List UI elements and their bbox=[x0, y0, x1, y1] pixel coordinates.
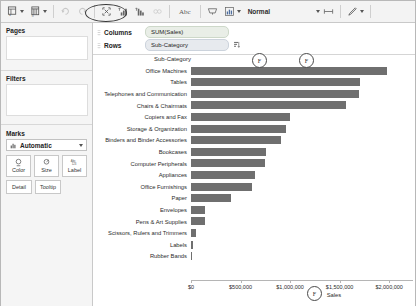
fix-axes-button[interactable] bbox=[321, 4, 336, 20]
table-row: Paper bbox=[93, 193, 415, 205]
bar-cell bbox=[191, 77, 415, 89]
row-header-label[interactable]: Office Machines bbox=[93, 68, 191, 74]
bar-mark[interactable] bbox=[191, 159, 265, 167]
grip-icon bbox=[97, 29, 101, 36]
clear-sheet-button[interactable] bbox=[99, 4, 114, 20]
marks-detail-button[interactable]: Detail bbox=[6, 180, 32, 194]
marks-buttons-row-1: Color Size Abc 123 bbox=[1, 155, 92, 180]
toolbar: x II bbox=[1, 1, 415, 23]
chevron-down-icon bbox=[360, 10, 364, 13]
x-axis-tick bbox=[340, 280, 341, 283]
chart-bars-icon bbox=[224, 6, 235, 17]
filters-dropzone[interactable] bbox=[6, 84, 88, 116]
bar-mark[interactable] bbox=[191, 229, 196, 237]
bar-cell bbox=[191, 239, 415, 251]
bar-cell bbox=[191, 146, 415, 158]
table-row: Tables bbox=[93, 77, 415, 89]
bar-mark[interactable] bbox=[191, 113, 290, 121]
sort-descending-button[interactable] bbox=[133, 4, 148, 20]
bar-cell bbox=[191, 193, 415, 205]
marks-label-button[interactable]: Abc 123 Label bbox=[62, 155, 87, 177]
pill-sub-category[interactable]: Sub-Category bbox=[145, 39, 229, 51]
row-header-label[interactable]: Copiers and Fax bbox=[93, 114, 191, 120]
toolbar-divider-5 bbox=[340, 5, 341, 18]
table-row: Rubber Bands bbox=[93, 251, 415, 263]
row-header-label[interactable]: Tables bbox=[93, 79, 191, 85]
fit-chevron-down-icon[interactable] bbox=[316, 10, 320, 13]
bar-mark[interactable] bbox=[191, 183, 252, 191]
undo-button[interactable] bbox=[58, 4, 73, 20]
pill-sum-sales[interactable]: SUM(Sales) bbox=[145, 26, 229, 38]
marks-tooltip-button[interactable]: Tooltip bbox=[35, 180, 61, 194]
chevron-down-icon bbox=[43, 10, 47, 13]
bar-mark[interactable] bbox=[191, 67, 387, 75]
x-axis-tick-label: $1,000,000 bbox=[276, 284, 304, 290]
rows-pill-area[interactable]: Sub-Category bbox=[145, 39, 415, 51]
row-header-label[interactable]: Paper bbox=[93, 195, 191, 201]
presentation-mode-button[interactable] bbox=[205, 4, 220, 20]
columns-shelf[interactable]: Columns SUM(Sales) bbox=[93, 26, 415, 38]
bar-cell bbox=[191, 135, 415, 147]
bar-mark[interactable] bbox=[191, 125, 286, 133]
annotation-marker-rows-header: F bbox=[252, 53, 267, 68]
x-axis-tick-label: $1,500,000 bbox=[326, 284, 354, 290]
marks-color-button[interactable]: Color bbox=[6, 155, 31, 177]
row-header-label[interactable]: Pens & Art Supplies bbox=[93, 219, 191, 225]
highlight-button[interactable] bbox=[345, 4, 366, 20]
bar-mark[interactable] bbox=[191, 217, 205, 225]
marks-title: Marks bbox=[1, 125, 92, 139]
redo-button[interactable] bbox=[75, 4, 90, 20]
x-axis-tick-label: $2,000,000 bbox=[375, 284, 403, 290]
fit-select[interactable]: Normal bbox=[245, 4, 313, 19]
bar-cell bbox=[191, 88, 415, 100]
row-header-label[interactable]: Chairs & Chairmats bbox=[93, 103, 191, 109]
bar-mark[interactable] bbox=[191, 241, 193, 249]
chevron-down-icon bbox=[20, 10, 24, 13]
bar-mark[interactable] bbox=[191, 252, 192, 260]
new-worksheet-icon: II bbox=[30, 6, 41, 17]
row-header-label[interactable]: Envelopes bbox=[93, 207, 191, 213]
bar-mark[interactable] bbox=[191, 101, 346, 109]
tableau-window: x II bbox=[0, 0, 416, 306]
x-axis-tick bbox=[241, 280, 242, 283]
columns-pill-area[interactable]: SUM(Sales) bbox=[145, 26, 415, 38]
new-data-source-button[interactable]: x bbox=[5, 4, 26, 20]
svg-text:x: x bbox=[9, 13, 11, 17]
row-header-label[interactable]: Office Furnishings bbox=[93, 184, 191, 190]
show-mark-labels-button[interactable]: Abc bbox=[174, 4, 196, 20]
marks-label-label: Label bbox=[68, 167, 81, 174]
pages-dropzone[interactable] bbox=[6, 36, 88, 60]
row-header-label[interactable]: Storage & Organization bbox=[93, 126, 191, 132]
sort-descending-indicator-icon[interactable] bbox=[233, 41, 240, 49]
fit-dropdown[interactable] bbox=[222, 4, 243, 20]
bar-cell bbox=[191, 169, 415, 181]
row-header-label[interactable]: Computer Peripherals bbox=[93, 161, 191, 167]
sort-descending-icon bbox=[135, 6, 146, 17]
row-header-label[interactable]: Appliances bbox=[93, 172, 191, 178]
marks-size-button[interactable]: Size bbox=[34, 155, 59, 177]
group-members-button[interactable] bbox=[150, 4, 165, 20]
bar-cell bbox=[191, 216, 415, 228]
new-worksheet-button[interactable]: II bbox=[28, 4, 49, 20]
marks-type-value: Automatic bbox=[20, 142, 77, 149]
sort-ascending-button[interactable] bbox=[116, 4, 131, 20]
bar-mark[interactable] bbox=[191, 136, 281, 144]
bar-mark[interactable] bbox=[191, 194, 231, 202]
row-header-label[interactable]: Bookcases bbox=[93, 149, 191, 155]
row-header-label[interactable]: Scissors, Rulers and Trimmers bbox=[93, 230, 191, 236]
size-icon bbox=[42, 158, 51, 167]
marks-type-select[interactable]: Automatic bbox=[6, 139, 87, 151]
bar-mark[interactable] bbox=[191, 78, 360, 86]
row-header-label[interactable]: Labels bbox=[93, 242, 191, 248]
bar-mark[interactable] bbox=[191, 171, 255, 179]
bar-mark[interactable] bbox=[191, 90, 359, 98]
marks-detail-label: Detail bbox=[12, 184, 26, 191]
bar-mark[interactable] bbox=[191, 148, 266, 156]
rows-shelf[interactable]: Rows Sub-Category bbox=[93, 39, 415, 51]
row-header-label[interactable]: Rubber Bands bbox=[93, 253, 191, 259]
bar-mark[interactable] bbox=[191, 206, 205, 214]
table-row: Computer Peripherals bbox=[93, 158, 415, 170]
row-header-label[interactable]: Binders and Binder Accessories bbox=[93, 137, 191, 143]
row-header-label[interactable]: Telephones and Communication bbox=[93, 91, 191, 97]
table-row: Copiers and Fax bbox=[93, 111, 415, 123]
